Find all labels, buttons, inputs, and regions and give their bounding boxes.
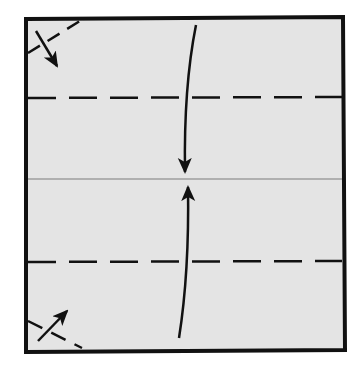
paper-square — [26, 17, 345, 352]
origami-diagram — [0, 0, 362, 373]
